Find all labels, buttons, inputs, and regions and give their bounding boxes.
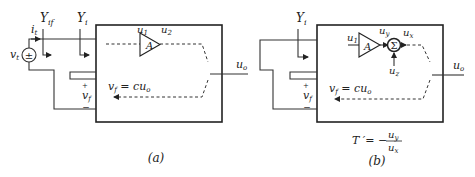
sigma-symbol: Σ bbox=[390, 40, 397, 51]
current-label: it bbox=[31, 23, 38, 37]
sum-input-label: uz bbox=[389, 65, 399, 78]
loop-gain-formula: T ′= − uy ux bbox=[352, 129, 402, 155]
feedback-port-a bbox=[70, 72, 96, 79]
formula-lhs: T ′= − bbox=[352, 134, 387, 147]
amp-out-label-b: uy bbox=[379, 25, 390, 38]
source-label: vt bbox=[10, 48, 19, 62]
admittance-i-label-b: Yi bbox=[296, 11, 307, 27]
input-wire-top-a bbox=[29, 39, 96, 48]
vf-minus-b: − bbox=[303, 102, 311, 112]
diagram-b: Yi + vf − A u1 uy Σ uz ux vf = cuo uo T … bbox=[260, 11, 464, 168]
feedback-port-b bbox=[290, 72, 317, 79]
vf-label-a: vf bbox=[82, 89, 92, 103]
feedback-equation-a: vf = cuo bbox=[108, 80, 151, 94]
vf-minus: − bbox=[82, 102, 90, 112]
admittance-if-label: Yif bbox=[40, 11, 55, 27]
amp-out-label-a: u2 bbox=[161, 24, 172, 37]
output-label-b: uo bbox=[453, 59, 464, 73]
admittance-i-arrow-icon bbox=[80, 29, 89, 55]
sum-output-label: ux bbox=[403, 27, 413, 40]
voltage-source-icon: ± bbox=[22, 48, 36, 62]
signal-dash-out-b bbox=[407, 45, 430, 62]
caption-a: (a) bbox=[148, 151, 165, 165]
admittance-i-arrow-icon bbox=[298, 29, 308, 57]
formula-denominator: ux bbox=[388, 142, 398, 155]
admittance-if-arrow-icon bbox=[43, 29, 51, 55]
vf-label-b: vf bbox=[303, 89, 313, 103]
network-box-b bbox=[317, 25, 443, 122]
formula-numerator: uy bbox=[388, 129, 399, 142]
admittance-i-label: Yi bbox=[77, 11, 88, 27]
caption-b: (b) bbox=[368, 154, 385, 168]
amp-label-a: A bbox=[145, 40, 153, 51]
amp-in-label-b: u1 bbox=[347, 32, 358, 45]
feedback-diagram-figure: ± vt it Yif Yi + vf − A u1 u2 vf = cuo u… bbox=[0, 0, 475, 177]
amp-label-b: A bbox=[363, 41, 371, 52]
feedback-equation-b: vf = cuo bbox=[329, 82, 372, 96]
network-box-a bbox=[96, 25, 222, 122]
output-label-a: uo bbox=[236, 58, 247, 72]
signal-dash-out-a bbox=[160, 44, 208, 62]
diagram-a: ± vt it Yif Yi + vf − A u1 u2 vf = cuo u… bbox=[10, 11, 248, 165]
svg-text:±: ± bbox=[25, 50, 33, 61]
